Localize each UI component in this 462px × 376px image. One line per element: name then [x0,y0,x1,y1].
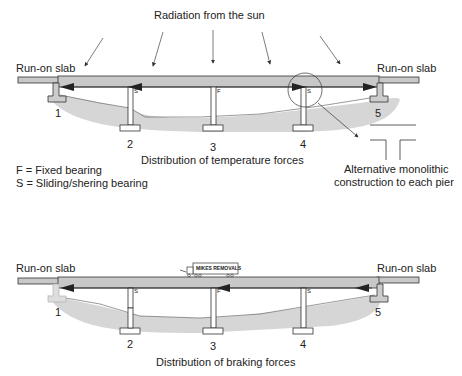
bearing-mark-pier3: F [217,88,221,94]
support-label-5: 5 [375,107,381,119]
pier-3 [211,87,216,125]
run-on-slab-left [18,77,60,83]
run-on-slab-right-bottom [377,277,419,283]
monolithic-caption-line2: construction to each pier [334,176,454,188]
support-label-1-bottom: 1 [55,306,61,318]
monolithic-detail [370,125,416,160]
run-on-slab-right-label-bottom: Run-on slab [377,262,436,274]
temperature-forces-caption: Distribution of temperature forces [141,154,304,166]
pier-2 [128,87,133,125]
monolithic-caption-line1: Alternative monolithic [344,163,449,175]
support-label-4: 4 [300,138,306,150]
bearing-mark-pier4-bottom: S [307,288,311,294]
pier-2-bottom [128,288,133,308]
ground-profile-top [47,95,400,132]
support-label-2-bottom: 2 [127,338,133,350]
sun-radiation-title: Radiation from the sun [154,9,265,21]
run-on-slab-left-label: Run-on slab [16,62,75,74]
support-label-1: 1 [55,107,61,119]
legend-sliding-bearing: S = Sliding/shering bearing [16,177,148,189]
braking-forces-caption: Distribution of braking forces [156,356,295,368]
legend-fixed-bearing: F = Fixed bearing [16,164,102,176]
bearing-mark-pier2: S [134,88,138,94]
bridge-deck-top [58,76,379,87]
run-on-slab-right [377,77,419,83]
run-on-slab-right-label: Run-on slab [377,62,436,74]
bearing-mark-pier3-bottom: F [217,288,221,294]
support-label-3: 3 [210,141,216,153]
run-on-slab-left-bottom [18,278,60,284]
truck-label: MIKES REMOVALS [196,265,241,271]
bearing-mark-pier2-bottom: S [134,288,138,294]
pier-4-bottom [301,288,306,328]
bearing-mark-pier4: S [307,88,311,94]
pier-4 [301,87,306,125]
sun-rays [85,30,340,66]
support-label-3-bottom: 3 [210,340,216,352]
bridge-deck-bottom [58,277,379,288]
support-label-4-bottom: 4 [300,338,306,350]
pier-3-bottom [211,288,216,328]
support-label-5-bottom: 5 [375,306,381,318]
run-on-slab-left-label-bottom: Run-on slab [16,262,75,274]
support-label-2: 2 [127,138,133,150]
